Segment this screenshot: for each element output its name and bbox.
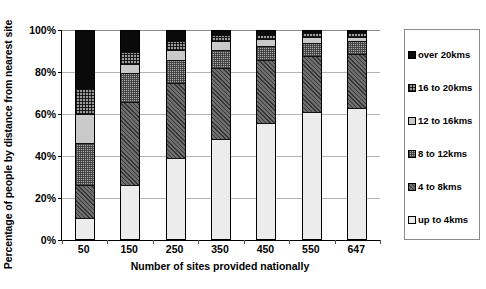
bar-segment[interactable] [257, 60, 275, 122]
y-axis-tick-mark [58, 156, 62, 157]
bar-segment[interactable] [257, 123, 275, 239]
x-axis-tick-label: 647 [348, 243, 366, 255]
bar-segment[interactable] [212, 50, 230, 69]
legend-item-label: 12 to 16kms [418, 115, 472, 126]
y-axis-title-text: Percentage of people by distance from ne… [2, 20, 14, 269]
stacked-bar[interactable] [256, 30, 276, 240]
legend-item[interactable]: 8 to 12kms [408, 137, 479, 170]
bar-segment[interactable] [76, 185, 94, 218]
x-axis-tick-labels: 50150250350450550647 [61, 243, 379, 259]
legend-swatch-icon [408, 183, 416, 191]
stacked-bar[interactable] [211, 30, 231, 240]
x-axis-tick-mark [380, 240, 381, 244]
y-axis-tick-mark [58, 198, 62, 199]
x-axis-tick-label: 450 [257, 243, 275, 255]
legend-item-label: 8 to 12kms [418, 148, 467, 159]
bar-segment[interactable] [212, 68, 230, 139]
bar-segment[interactable] [121, 52, 139, 64]
bar-column[interactable] [75, 30, 95, 240]
y-axis-tick-label: 40% [35, 150, 56, 162]
legend-item-label: 4 to 8kms [418, 181, 462, 192]
bar-segment[interactable] [121, 64, 139, 72]
bar-segment[interactable] [257, 46, 275, 61]
legend-swatch-icon [408, 216, 416, 224]
x-axis-tick-label: 550 [302, 243, 320, 255]
stacked-bar[interactable] [75, 30, 95, 240]
legend-item-label: over 20kms [418, 49, 470, 60]
bar-column[interactable] [347, 30, 367, 240]
bar-segment[interactable] [303, 43, 321, 55]
bar-segment[interactable] [348, 41, 366, 53]
legend-item[interactable]: 16 to 20kms [408, 71, 479, 104]
bar-segment[interactable] [76, 31, 94, 89]
y-axis-tick-label: 0% [41, 234, 56, 246]
y-axis-tick-mark [58, 114, 62, 115]
y-axis-tick-mark [58, 30, 62, 31]
bar-segment[interactable] [303, 112, 321, 239]
y-axis-title: Percentage of people by distance from ne… [0, 0, 16, 289]
legend-swatch-icon [408, 150, 416, 158]
legend-swatch-icon [408, 84, 416, 92]
bar-segment[interactable] [212, 41, 230, 49]
x-axis-tick-label: 150 [120, 243, 138, 255]
y-axis-tick-labels: 0%20%40%60%80%100% [18, 0, 60, 289]
x-axis-tick-label: 350 [211, 243, 229, 255]
bar-segment[interactable] [348, 54, 366, 108]
bar-segment[interactable] [121, 31, 139, 52]
bar-column[interactable] [302, 30, 322, 240]
bar-segment[interactable] [167, 158, 185, 239]
x-axis-tick-label: 250 [166, 243, 184, 255]
bar-segment[interactable] [76, 218, 94, 239]
legend-item-label: up to 4kms [418, 214, 468, 225]
legend-item[interactable]: 4 to 8kms [408, 170, 479, 203]
stacked-bar[interactable] [166, 30, 186, 240]
bar-segment[interactable] [212, 139, 230, 239]
bar-segment[interactable] [303, 56, 321, 112]
legend-item-label: 16 to 20kms [418, 82, 472, 93]
legend-item[interactable]: over 20kms [408, 38, 479, 71]
bar-segment[interactable] [167, 41, 185, 49]
x-axis-title-text: Number of sites provided nationally [131, 260, 310, 272]
bar-segment[interactable] [348, 108, 366, 239]
bar-segment[interactable] [121, 73, 139, 102]
bar-segment[interactable] [121, 185, 139, 239]
bar-segment[interactable] [167, 31, 185, 41]
legend-swatch-icon [408, 117, 416, 125]
legend-item[interactable]: 12 to 16kms [408, 104, 479, 137]
stacked-bar[interactable] [347, 30, 367, 240]
bar-segment[interactable] [167, 60, 185, 83]
bar-column[interactable] [120, 30, 140, 240]
chart-legend: over 20kms16 to 20kms12 to 16kms8 to 12k… [404, 29, 480, 240]
y-axis-tick-mark [58, 72, 62, 73]
bar-segment[interactable] [76, 114, 94, 143]
y-axis-tick-label: 20% [35, 192, 56, 204]
x-axis-title: Number of sites provided nationally [61, 260, 379, 272]
bar-segment[interactable] [167, 83, 185, 158]
y-axis-tick-label: 60% [35, 108, 56, 120]
bar-segment[interactable] [76, 143, 94, 185]
bar-column[interactable] [211, 30, 231, 240]
y-axis-tick-label: 100% [29, 24, 56, 36]
bar-column[interactable] [166, 30, 186, 240]
x-axis-tick-label: 50 [78, 243, 90, 255]
stacked-bar[interactable] [302, 30, 322, 240]
plot-area [61, 30, 380, 241]
bar-segment[interactable] [121, 102, 139, 185]
bar-segment[interactable] [76, 89, 94, 114]
bar-segment[interactable] [167, 50, 185, 60]
stacked-bar[interactable] [120, 30, 140, 240]
legend-swatch-icon [408, 51, 416, 59]
y-axis-tick-label: 80% [35, 66, 56, 78]
bar-column[interactable] [256, 30, 276, 240]
legend-item[interactable]: up to 4kms [408, 203, 479, 236]
